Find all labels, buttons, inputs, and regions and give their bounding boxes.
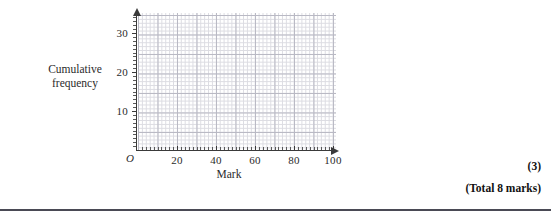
x-tick-minor [236,147,237,150]
x-tick-minor [224,147,225,150]
y-tick-minor [133,80,136,81]
x-tick-minor [329,147,330,150]
x-tick-minor [286,147,287,150]
y-tick-minor [133,103,136,104]
graph-grid [138,13,336,150]
x-tick-minor [193,147,194,150]
x-tick-minor [200,147,201,150]
y-tick-minor [133,146,136,147]
x-axis-tick-label: 100 [316,154,350,166]
y-tick-minor [133,127,136,128]
footer-divider [0,209,551,211]
y-tick-minor [133,41,136,42]
x-tick-major-80 [294,146,295,151]
total-marks-label: (Total 8 marks) [465,182,541,194]
x-tick-minor [146,147,147,150]
y-tick-major-30 [132,33,137,34]
x-tick-minor [197,147,198,150]
x-tick-minor [251,147,252,150]
x-tick-minor [220,147,221,150]
x-tick-minor [204,147,205,150]
x-axis-tick-label: 60 [238,154,272,166]
y-tick-minor [133,142,136,143]
y-tick-minor [133,119,136,120]
y-tick-minor [133,49,136,50]
x-axis-tick-label: 80 [277,154,311,166]
x-tick-minor [154,147,155,150]
y-tick-minor [133,37,136,38]
x-tick-minor [161,147,162,150]
x-tick-minor [158,147,159,150]
part-marks-label: (3) [528,160,541,172]
y-tick-minor [133,29,136,30]
x-tick-minor [290,147,291,150]
y-tick-minor [133,123,136,124]
x-tick-minor [169,147,170,150]
origin-label: O [126,152,134,164]
y-tick-minor [133,17,136,18]
y-tick-minor [133,25,136,26]
y-tick-minor [133,107,136,108]
x-tick-minor [142,147,143,150]
y-tick-minor [133,68,136,69]
x-tick-major-60 [255,146,256,151]
y-axis-line [136,14,137,151]
x-tick-minor [321,147,322,150]
y-axis-title-line2: frequency [32,76,118,90]
x-tick-minor [247,147,248,150]
y-tick-minor [133,95,136,96]
x-axis-tick-label: 40 [199,154,233,166]
y-tick-minor [133,84,136,85]
x-tick-minor [228,147,229,150]
y-tick-minor [133,138,136,139]
x-tick-major-40 [216,146,217,151]
y-tick-minor [133,45,136,46]
y-tick-major-20 [132,72,137,73]
y-tick-minor [133,21,136,22]
x-tick-minor [165,147,166,150]
x-tick-minor [298,147,299,150]
y-axis-title-line1: Cumulative [32,62,118,76]
x-axis-title: Mark [196,168,262,180]
x-tick-minor [275,147,276,150]
x-tick-minor [282,147,283,150]
y-tick-minor [133,60,136,61]
x-tick-minor [271,147,272,150]
y-tick-major-10 [132,111,137,112]
x-tick-minor [232,147,233,150]
y-axis-title: Cumulative frequency [32,62,118,90]
exam-question-page: 20 40 60 80 100 30 20 10 O Cumulative fr… [0,0,551,224]
y-tick-minor [133,88,136,89]
x-axis-tick-label: 20 [160,154,194,166]
x-tick-minor [150,147,151,150]
x-tick-minor [278,147,279,150]
x-tick-minor [185,147,186,150]
x-tick-minor [310,147,311,150]
x-tick-minor [212,147,213,150]
y-tick-minor [133,131,136,132]
y-axis-tick-label: 30 [104,27,128,39]
y-axis-arrow-icon [133,8,141,16]
x-tick-minor [267,147,268,150]
x-tick-minor [243,147,244,150]
x-tick-major-100 [333,146,334,151]
y-tick-minor [133,115,136,116]
x-tick-major-20 [177,146,178,151]
x-tick-minor [173,147,174,150]
x-axis-line [136,150,332,151]
x-tick-minor [259,147,260,150]
y-tick-minor [133,99,136,100]
x-tick-minor [306,147,307,150]
x-tick-minor [314,147,315,150]
cumulative-frequency-graph: 20 40 60 80 100 30 20 10 O Cumulative fr… [0,0,551,200]
x-tick-minor [302,147,303,150]
y-tick-minor [133,56,136,57]
y-axis-tick-label: 10 [104,105,128,117]
y-tick-minor [133,76,136,77]
x-tick-minor [325,147,326,150]
y-tick-minor [133,64,136,65]
x-tick-minor [263,147,264,150]
y-tick-minor [133,134,136,135]
x-tick-minor [189,147,190,150]
x-tick-minor [239,147,240,150]
